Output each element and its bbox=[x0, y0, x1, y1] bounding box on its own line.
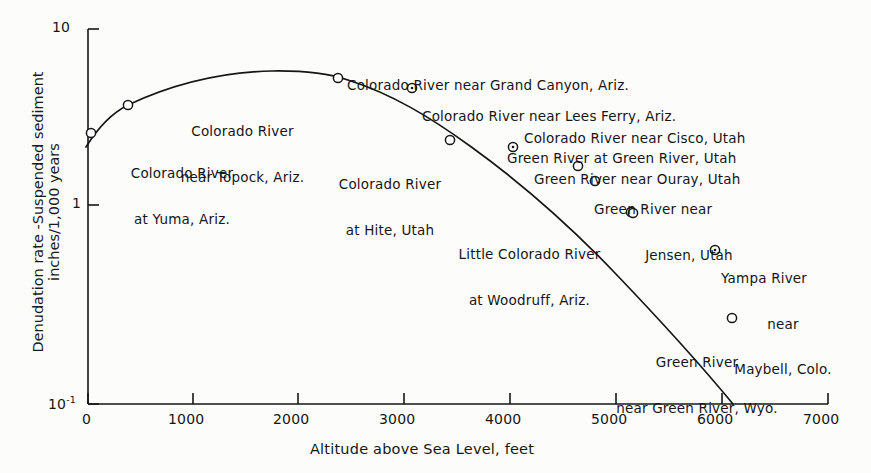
y-axis-title: Denudation rate -Suspended sediment inch… bbox=[30, 62, 62, 362]
y-axis-title-line2: inches/1,000 years bbox=[46, 62, 62, 362]
annotation-woodruff-line2: at Woodruff, Ariz. bbox=[422, 293, 637, 308]
x-tick-label-0: 0 bbox=[82, 412, 91, 428]
y-axis-title-line1: Denudation rate -Suspended sediment bbox=[30, 62, 46, 362]
annotation-maybell-line1: Yampa River bbox=[703, 271, 863, 286]
x-axis-title: Altitude above Sea Level, feet bbox=[310, 441, 534, 457]
x-tick-label-4000: 4000 bbox=[485, 412, 521, 428]
annotation-greenriverwy-line2: near Green River, Wyo. bbox=[557, 401, 837, 416]
annotation-greenriverwy: Green River near Green River, Wyo. bbox=[557, 325, 837, 446]
annotation-hite-line1: Colorado River bbox=[300, 177, 480, 192]
data-point-topock bbox=[123, 100, 132, 109]
x-tick-label-2000: 2000 bbox=[273, 412, 309, 428]
y-tick-label-10: 10 bbox=[52, 20, 70, 36]
annotation-topock-line1: Colorado River bbox=[145, 124, 340, 139]
data-point-grandcanyon bbox=[333, 73, 342, 82]
annotation-greenriverwy-line1: Green River bbox=[557, 355, 837, 370]
chart-container: 10 1 10-1 0 1000 2000 3000 4000 5000 600… bbox=[0, 0, 871, 473]
annotation-woodruff-line1: Little Colorado River bbox=[422, 247, 637, 262]
y-tick-exponent: -1 bbox=[66, 394, 76, 405]
y-tick-label-01: 10-1 bbox=[48, 395, 76, 412]
annotation-jensen-line1: Green River near bbox=[594, 202, 784, 217]
y-tick-label-1: 1 bbox=[72, 196, 81, 212]
annotation-woodruff: Little Colorado River at Woodruff, Ariz. bbox=[422, 217, 637, 338]
y-tick-base: 10 bbox=[48, 396, 66, 412]
x-tick-label-1000: 1000 bbox=[168, 412, 204, 428]
x-tick-label-3000: 3000 bbox=[379, 412, 415, 428]
